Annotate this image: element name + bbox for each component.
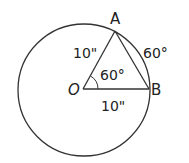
label-b: B (151, 81, 161, 99)
label-side-ob: 10" (101, 98, 125, 114)
circle (18, 24, 150, 156)
label-a: A (110, 10, 121, 28)
label-o: O (68, 81, 80, 99)
label-side-oa: 10" (73, 45, 97, 61)
angle-arc (91, 76, 99, 89)
label-arc-ab: 60° (143, 45, 168, 61)
circle-diagram: A B O 10" 10" 60° 60° (0, 0, 189, 163)
label-central-angle: 60° (100, 67, 125, 83)
